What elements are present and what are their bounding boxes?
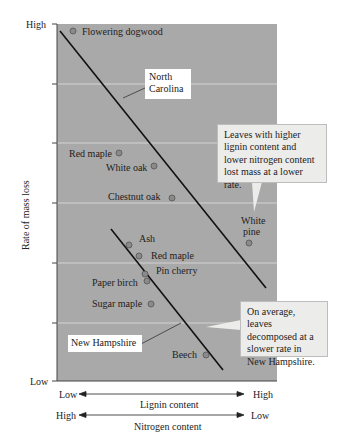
point-ash [126,242,132,248]
point-beech [203,352,209,358]
point-chestnut-oak [169,195,175,201]
callout-lignin-nitrogen: Leaves with higher lignin content and lo… [217,124,327,183]
point-flowering-dogwood [70,28,76,34]
point-paper-birch [144,278,150,284]
label-white-oak: White oak [106,162,147,173]
x2-high-label: High [56,410,76,421]
label-red-maple-nh: Red maple [151,250,195,261]
x-low-label: Low [59,389,78,400]
nc-label-line2: Carolina [149,83,187,95]
y-high-label: High [26,19,46,30]
y-axis-title: Rate of mass loss [20,180,31,250]
label-pin-cherry: Pin cherry [156,265,197,276]
label-white-pine-1: White [241,215,266,226]
point-red-maple-nc [116,150,122,156]
y-low-label: Low [30,376,49,387]
point-white-pine [246,240,252,246]
label-flowering-dogwood: Flowering dogwood [82,26,163,37]
point-white-oak [151,163,157,169]
label-beech: Beech [172,349,197,360]
label-white-pine-2: pine [243,226,261,237]
x-high-label: High [253,389,273,400]
nh-series-label: New Hampshire [68,335,142,352]
point-sugar-maple [148,301,154,307]
label-chestnut-oak: Chestnut oak [108,191,161,202]
label-red-maple-nc: Red maple [69,148,113,159]
scatter-chart: Flowering dogwood Red maple White oak Ch… [0,0,345,443]
x-axis-title: Lignin content [140,399,199,410]
x2-axis-title: Nitrogen content [134,421,202,432]
label-sugar-maple: Sugar maple [92,298,143,309]
nc-series-label: North Carolina [145,69,191,99]
label-ash: Ash [139,233,155,244]
callout-new-hampshire: On average, leaves decomposed at a slowe… [240,301,328,357]
x2-low-label: Low [251,410,270,421]
label-paper-birch: Paper birch [92,277,138,288]
nc-label-line1: North [149,71,187,83]
point-pin-cherry [142,271,148,277]
point-red-maple-nh [136,253,142,259]
